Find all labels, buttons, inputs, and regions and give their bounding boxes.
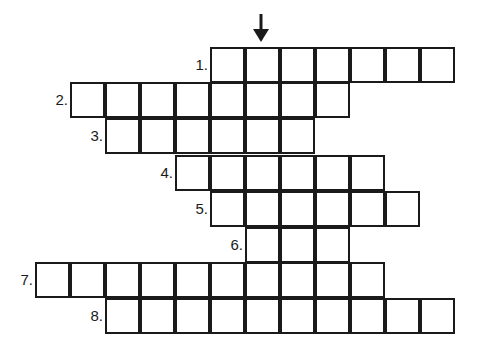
crossword-cell[interactable] — [245, 47, 280, 83]
crossword-cell[interactable] — [280, 191, 315, 227]
crossword-cell[interactable] — [245, 227, 280, 263]
crossword-cell[interactable] — [140, 118, 175, 154]
crossword-cell[interactable] — [140, 262, 175, 298]
crossword-cell[interactable] — [245, 155, 280, 191]
crossword-cell[interactable] — [175, 298, 210, 334]
crossword-cell[interactable] — [420, 298, 455, 334]
crossword-cell[interactable] — [245, 262, 280, 298]
crossword-cell[interactable] — [70, 82, 105, 118]
crossword-cell[interactable] — [280, 118, 315, 154]
crossword-cell[interactable] — [210, 191, 245, 227]
crossword-cell[interactable] — [350, 262, 385, 298]
down-arrow-icon — [251, 12, 271, 44]
crossword-cell[interactable] — [420, 47, 455, 83]
clue-number-3: 3. — [73, 127, 103, 144]
crossword-cell[interactable] — [315, 227, 350, 263]
crossword-cell[interactable] — [280, 155, 315, 191]
crossword-cell[interactable] — [280, 262, 315, 298]
crossword-cell[interactable] — [350, 191, 385, 227]
crossword-cell[interactable] — [175, 82, 210, 118]
crossword-cell[interactable] — [315, 191, 350, 227]
crossword-cell[interactable] — [315, 47, 350, 83]
crossword-cell[interactable] — [105, 262, 140, 298]
crossword-cell[interactable] — [140, 82, 175, 118]
crossword-cell[interactable] — [350, 155, 385, 191]
crossword-cell[interactable] — [385, 191, 420, 227]
crossword-cell[interactable] — [280, 47, 315, 83]
crossword-cell[interactable] — [315, 262, 350, 298]
clue-number-7: 7. — [3, 271, 33, 288]
clue-number-6: 6. — [213, 236, 243, 253]
clue-number-8: 8. — [73, 307, 103, 324]
crossword-cell[interactable] — [105, 298, 140, 334]
crossword-cell[interactable] — [245, 82, 280, 118]
crossword-cell[interactable] — [280, 227, 315, 263]
crossword-cell[interactable] — [105, 82, 140, 118]
crossword-cell[interactable] — [350, 47, 385, 83]
crossword-cell[interactable] — [245, 298, 280, 334]
crossword-cell[interactable] — [245, 191, 280, 227]
clue-number-1: 1. — [178, 56, 208, 73]
crossword-cell[interactable] — [70, 262, 105, 298]
crossword-cell[interactable] — [175, 118, 210, 154]
crossword-cell[interactable] — [245, 118, 280, 154]
crossword-cell[interactable] — [210, 118, 245, 154]
crossword-cell[interactable] — [315, 298, 350, 334]
crossword-cell[interactable] — [175, 262, 210, 298]
crossword-cell[interactable] — [210, 262, 245, 298]
crossword-cell[interactable] — [350, 298, 385, 334]
crossword-cell[interactable] — [140, 298, 175, 334]
crossword-cell[interactable] — [210, 82, 245, 118]
crossword-cell[interactable] — [280, 298, 315, 334]
clue-number-4: 4. — [143, 164, 173, 181]
crossword-cell[interactable] — [315, 82, 350, 118]
crossword-cell[interactable] — [35, 262, 70, 298]
crossword-cell[interactable] — [385, 47, 420, 83]
crossword-cell[interactable] — [210, 298, 245, 334]
crossword-cell[interactable] — [210, 155, 245, 191]
clue-number-2: 2. — [38, 91, 68, 108]
crossword-cell[interactable] — [105, 118, 140, 154]
crossword-cell[interactable] — [280, 82, 315, 118]
crossword-cell[interactable] — [210, 47, 245, 83]
crossword-cell[interactable] — [175, 155, 210, 191]
crossword-cell[interactable] — [315, 155, 350, 191]
clue-number-5: 5. — [178, 200, 208, 217]
crossword-cell[interactable] — [385, 298, 420, 334]
